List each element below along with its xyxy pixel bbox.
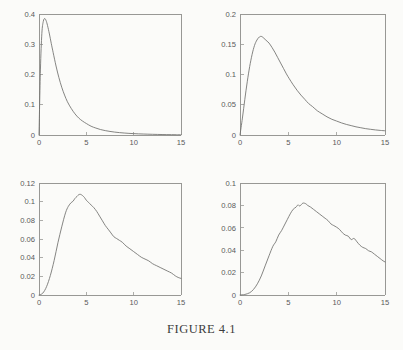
x-tick-label: 10 — [332, 298, 340, 307]
y-tick-label: 0.3 — [24, 40, 35, 49]
x-tick-label: 10 — [332, 138, 340, 147]
x-tick-label: 0 — [37, 298, 41, 307]
y-tick-label: 0.1 — [225, 70, 236, 79]
y-tick-label: 0 — [232, 291, 236, 300]
y-tick-label: 0.2 — [225, 10, 236, 19]
chart-panel-bottom-right: 00.020.040.060.080.1051015 — [201, 170, 403, 322]
axis-frame — [39, 14, 181, 135]
y-tick-label: 0.02 — [20, 272, 35, 281]
x-tick-label: 15 — [177, 138, 185, 147]
x-tick-label: 5 — [286, 298, 290, 307]
y-tick-label: 0 — [31, 131, 35, 140]
x-tick-label: 15 — [177, 298, 185, 307]
chart-panel-top-left: 00.10.20.30.4051015 — [0, 0, 201, 172]
y-tick-label: 0.06 — [221, 224, 236, 233]
plot-top-left: 00.10.20.30.4051015 — [0, 0, 201, 172]
y-tick-label: 0.08 — [221, 201, 236, 210]
y-tick-label: 0.1 — [225, 179, 236, 188]
y-tick-label: 0.04 — [221, 246, 236, 255]
y-tick-label: 0.2 — [24, 70, 35, 79]
data-curve — [240, 36, 385, 135]
x-tick-label: 0 — [238, 298, 242, 307]
y-tick-label: 0.02 — [221, 268, 236, 277]
plot-bottom-left: 00.020.040.060.080.10.12051015 — [0, 170, 201, 322]
y-tick-label: 0.08 — [20, 216, 35, 225]
axis-frame — [39, 183, 181, 295]
y-tick-label: 0 — [232, 131, 236, 140]
x-tick-label: 0 — [37, 138, 41, 147]
y-tick-label: 0.04 — [20, 253, 35, 262]
x-tick-label: 0 — [238, 138, 242, 147]
plot-top-right: 00.050.10.150.2051015 — [201, 0, 403, 172]
x-tick-label: 5 — [84, 138, 88, 147]
data-curve — [39, 194, 181, 295]
plot-bottom-right: 00.020.040.060.080.1051015 — [201, 170, 403, 322]
y-tick-label: 0.15 — [221, 40, 236, 49]
x-tick-label: 5 — [84, 298, 88, 307]
chart-panel-top-right: 00.050.10.150.2051015 — [201, 0, 403, 172]
y-tick-label: 0.12 — [20, 179, 35, 188]
x-tick-label: 15 — [381, 298, 389, 307]
data-curve — [39, 19, 181, 135]
x-tick-label: 5 — [286, 138, 290, 147]
figure-container: 00.10.20.30.4051015 00.050.10.150.205101… — [0, 0, 403, 350]
axis-frame — [240, 14, 385, 135]
y-tick-label: 0.1 — [24, 197, 35, 206]
data-curve — [240, 203, 385, 295]
axis-frame — [240, 183, 385, 295]
chart-panel-bottom-left: 00.020.040.060.080.10.12051015 — [0, 170, 201, 322]
y-tick-label: 0.1 — [24, 100, 35, 109]
x-tick-label: 10 — [129, 138, 137, 147]
y-tick-label: 0 — [31, 291, 35, 300]
y-tick-label: 0.05 — [221, 100, 236, 109]
x-tick-label: 15 — [381, 138, 389, 147]
figure-caption: FIGURE 4.1 — [0, 322, 403, 337]
x-tick-label: 10 — [129, 298, 137, 307]
y-tick-label: 0.4 — [24, 10, 35, 19]
y-tick-label: 0.06 — [20, 235, 35, 244]
